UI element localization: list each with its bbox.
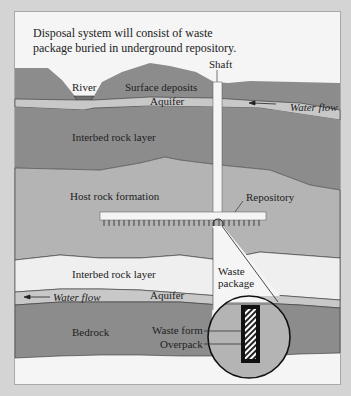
host-rock-label: Host rock formation [70,190,159,202]
aquifer-top-label: Aquifer [150,95,184,107]
bedrock-label: Bedrock [72,326,109,338]
waste-form [245,309,256,359]
water-flow-bottom-label: Water flow [53,291,101,303]
surface-deposits-label: Surface deposits [125,81,197,93]
interbed-top-label: Interbed rock layer [72,131,156,143]
aquifer-bottom-label: Aquifer [150,289,184,301]
waste-package-label-2: package [218,277,254,289]
repository-tunnel [100,212,266,220]
shaft [213,82,222,214]
shaft-label: Shaft [209,58,232,70]
repository-label: Repository [246,191,294,203]
overpack-label: Overpack [160,338,203,350]
river-label: River [72,81,96,93]
waste-package-label-1: Waste [218,265,245,277]
geologic-cross-section [0,0,351,396]
waste-form-label: Waste form [152,324,203,336]
interbed-bottom-label: Interbed rock layer [72,268,156,280]
water-flow-top-label: Water flow [290,101,338,113]
